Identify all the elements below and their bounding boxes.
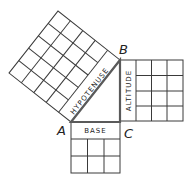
vertex-b-label: B xyxy=(119,42,128,57)
pythagorean-diagram: HYPOTENUSE ALTITUDE BASE A B C xyxy=(0,0,196,187)
base-label: BASE xyxy=(84,127,106,135)
vertex-c-label: C xyxy=(124,126,134,141)
vertex-a-label: A xyxy=(56,123,66,138)
altitude-label: ALTITUDE xyxy=(125,70,133,111)
